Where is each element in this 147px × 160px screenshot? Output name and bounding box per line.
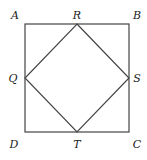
label-r: R <box>72 9 81 22</box>
label-b: B <box>132 9 141 22</box>
label-a: A <box>10 9 19 22</box>
label-t: T <box>73 138 82 151</box>
label-c: C <box>133 138 142 151</box>
outer-square-abcd <box>25 24 129 132</box>
label-d: D <box>9 138 19 151</box>
label-q: Q <box>8 72 17 85</box>
geometry-diagram: A B C D R S T Q <box>0 0 147 160</box>
inner-square-qrst <box>25 24 129 132</box>
label-s: S <box>133 72 141 85</box>
